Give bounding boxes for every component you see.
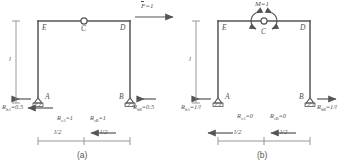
dimension-label-l-a: l [9,56,11,63]
panel-a-drawing [0,0,180,166]
reaction-label-vB-a: RvB=1 [90,115,106,124]
node-label-e-a: E [42,24,47,32]
dimension-label-left-span-a: l/2 [54,129,61,136]
node-label-b-a: B [119,93,124,101]
dimension-height-a [12,21,20,103]
reaction-label-hB-a: RhB=0.5 [133,104,154,113]
reaction-label-hA-b: RhA=1/l [181,104,201,113]
reaction-label-hA-a: RhA=0.5 [2,104,23,113]
node-label-a-b: A [225,93,230,101]
node-label-c-b: C [261,28,266,36]
reaction-label-hB-b: RhB=1/l [317,104,337,113]
support-b-right [305,98,315,106]
reaction-label-vA-a: RvA=1 [57,115,73,124]
node-label-b-b: B [299,93,304,101]
reaction-label-vB-b: RvB=0 [270,113,286,122]
panel-a: F=1 E C D A B l l/2 l/2 RhA=0.5 RvA=1 Rh… [0,0,180,166]
dimension-label-right-span-a: l/2 [100,129,107,136]
load-label-f-a: F=1 [141,3,154,10]
node-label-e-b: E [222,24,227,32]
dimension-label-l-b: l [189,56,191,63]
reaction-label-vA-b: RvA=0 [237,113,253,122]
dimension-label-right-span-b: l/2 [280,129,287,136]
node-label-d-b: D [300,24,305,32]
node-label-d-a: D [120,24,125,32]
dimension-span-b [218,137,310,145]
panel-caption-b: (b) [257,150,267,160]
panel-caption-a: (a) [77,150,87,160]
dimension-label-left-span-b: l/2 [234,129,241,136]
dimension-height-b [192,21,200,103]
node-label-a-a: A [45,93,50,101]
panel-b-drawing [180,0,360,166]
node-label-c-a: C [81,25,86,33]
figure-root: F=1 E C D A B l l/2 l/2 RhA=0.5 RvA=1 Rh… [0,0,360,166]
load-label-m-b: M=1 [255,1,269,8]
dimension-span-a [38,137,130,145]
panel-b: M=1 E C D A B l l/2 l/2 RhA=1/l RvA=0 Rh… [180,0,360,166]
support-a-left [33,98,43,106]
support-b-left [213,98,223,106]
hinge-c-b [261,18,267,24]
